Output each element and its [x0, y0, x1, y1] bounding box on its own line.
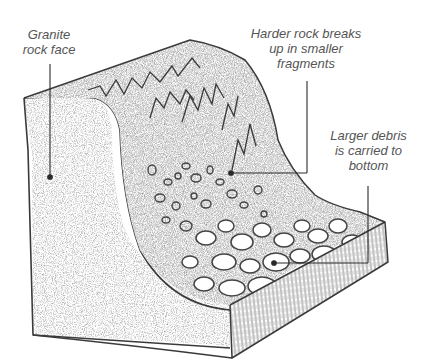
label-larger-debris: Larger debris is carried to bottom — [316, 128, 421, 173]
label-line: up in smaller — [236, 41, 376, 56]
leader-dot-granite — [48, 175, 53, 180]
label-line: fragments — [236, 56, 376, 71]
leader-dot-harder — [229, 171, 234, 176]
label-line: rock face — [10, 42, 88, 57]
label-line: Harder rock breaks — [236, 26, 376, 41]
leader-dot-larger — [272, 261, 277, 266]
label-line: Granite — [10, 27, 88, 42]
label-granite-rock-face: Granite rock face — [10, 27, 88, 57]
label-harder-rock-fragments: Harder rock breaks up in smaller fragmen… — [236, 26, 376, 71]
label-line: bottom — [316, 158, 421, 173]
label-line: is carried to — [316, 143, 421, 158]
label-line: Larger debris — [316, 128, 421, 143]
